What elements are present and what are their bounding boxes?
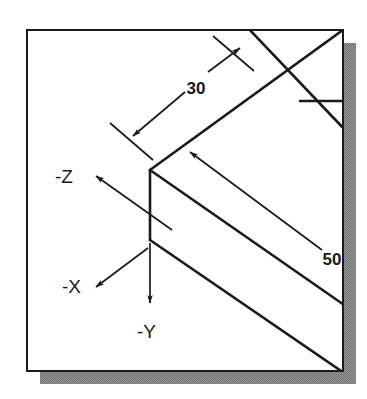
technical-drawing-canvas: 30 50 -Z -X -Y <box>0 0 367 399</box>
axis-neg-y-label: -Y <box>137 321 156 342</box>
dim-50-label: 50 <box>323 250 342 269</box>
figure-root: 30 50 -Z -X -Y <box>0 0 367 399</box>
drawing-frame <box>27 30 343 371</box>
axis-neg-x-label: -X <box>62 276 81 297</box>
dim-30-label: 30 <box>187 79 206 98</box>
axis-neg-z-label: -Z <box>55 166 73 187</box>
